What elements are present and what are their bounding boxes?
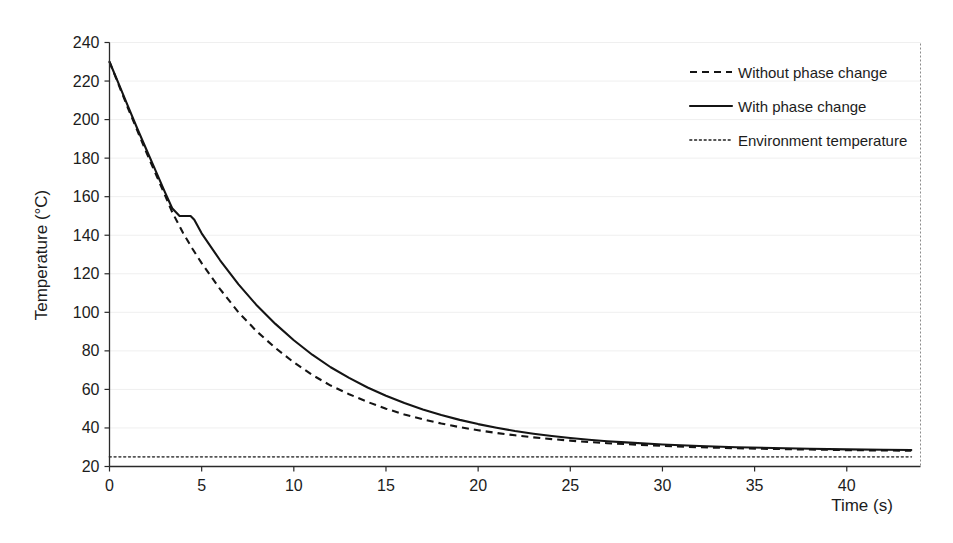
x-tick-label: 35 [746,477,764,494]
y-tick-label: 240 [73,34,100,51]
x-axis-title: Time (s) [831,496,893,515]
chart-figure: 20406080100120140160180200220240 0510152… [0,0,953,543]
y-tick-label: 120 [73,265,100,282]
y-axis-title: Temperature (°C) [32,190,51,321]
x-tick-label: 10 [285,477,303,494]
y-tick-label: 60 [82,381,100,398]
y-tick-label: 180 [73,150,100,167]
y-tick-label: 100 [73,304,100,321]
legend-label: Environment temperature [738,132,907,149]
x-tick-label: 30 [654,477,672,494]
x-tick-label: 5 [197,477,206,494]
y-tick-label: 140 [73,227,100,244]
y-tick-label: 80 [82,342,100,359]
x-tick-label: 25 [561,477,579,494]
y-tick-label: 160 [73,188,100,205]
y-tick-label: 200 [73,111,100,128]
legend-label: Without phase change [738,64,887,81]
x-tick-label: 40 [838,477,856,494]
y-tick-label: 220 [73,73,100,90]
y-tick-label: 40 [82,419,100,436]
x-tick-label: 20 [469,477,487,494]
x-tick-label: 15 [377,477,395,494]
y-tick-label: 20 [82,458,100,475]
legend-label: With phase change [738,98,866,115]
x-tick-label: 0 [105,477,114,494]
chart-canvas: 20406080100120140160180200220240 0510152… [0,0,953,543]
